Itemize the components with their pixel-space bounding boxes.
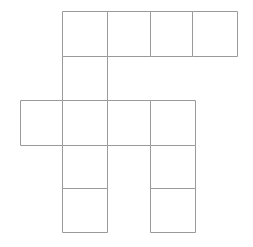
cell-r3c4 <box>151 101 196 146</box>
cell-r4c4 <box>151 146 196 189</box>
cell-r3c2 <box>63 101 108 146</box>
cell-r4c2 <box>63 146 108 189</box>
cell-r1c3 <box>108 12 151 57</box>
cell-r1c4 <box>151 12 193 57</box>
cell-r3c1 <box>21 101 63 146</box>
cell-r3c3 <box>108 101 151 146</box>
polyomino-net-diagram <box>0 0 253 247</box>
figure-canvas <box>0 0 253 247</box>
cell-r5c4 <box>151 189 196 233</box>
cell-r5c2 <box>63 189 108 233</box>
cell-r2c2 <box>63 57 108 101</box>
net-cells-group <box>21 12 238 233</box>
cell-r1c5 <box>193 12 238 57</box>
cell-r1c2 <box>63 12 108 57</box>
